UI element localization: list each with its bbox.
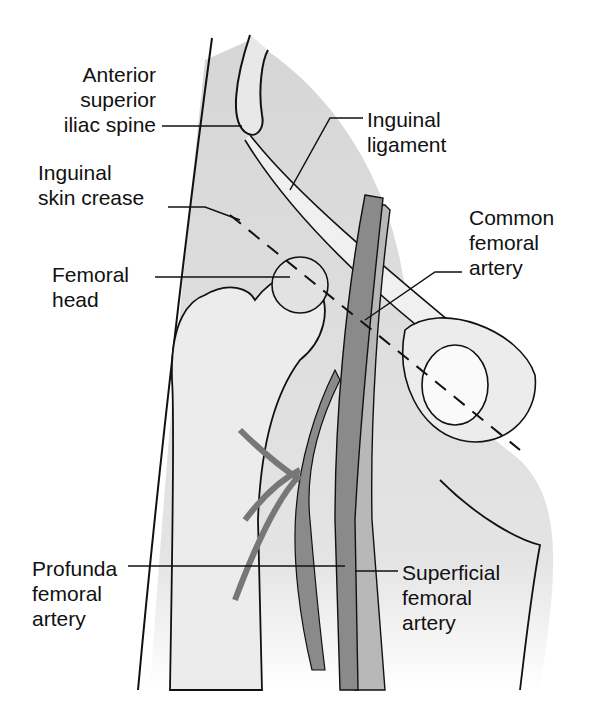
femoral-head <box>272 257 328 313</box>
label-asis: Anterior superior iliac spine <box>64 62 156 137</box>
label-femoral-head: Femoral head <box>52 262 129 312</box>
label-line: Superficial <box>402 560 500 585</box>
label-common-femoral: Common femoral artery <box>469 205 554 280</box>
label-line: Femoral <box>52 262 129 287</box>
label-profunda: Profunda femoral artery <box>32 556 117 631</box>
label-line: Inguinal <box>38 160 144 185</box>
label-line: femoral <box>469 230 554 255</box>
label-line: ligament <box>367 132 446 157</box>
label-line: head <box>52 287 129 312</box>
label-superficial: Superficial femoral artery <box>402 560 500 635</box>
label-line: artery <box>402 610 500 635</box>
label-line: Common <box>469 205 554 230</box>
label-line: artery <box>32 606 117 631</box>
label-line: skin crease <box>38 185 144 210</box>
label-line: artery <box>469 255 554 280</box>
label-line: iliac spine <box>64 112 156 137</box>
label-line: superior <box>64 87 156 112</box>
label-line: Inguinal <box>367 107 446 132</box>
obturator-foramen <box>422 345 488 425</box>
label-line: femoral <box>32 581 117 606</box>
label-skin-crease: Inguinal skin crease <box>38 160 144 210</box>
label-line: Profunda <box>32 556 117 581</box>
label-line: femoral <box>402 585 500 610</box>
label-line: Anterior <box>64 62 156 87</box>
label-inguinal-ligament: Inguinal ligament <box>367 107 446 157</box>
